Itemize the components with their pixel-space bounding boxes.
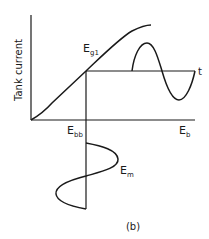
curve-label-eg1: Eg1 — [83, 42, 99, 57]
bias-label-ebb: Ebb — [67, 124, 83, 139]
y-axis-label: Tank current — [13, 39, 24, 102]
x-axis-label-eb: Eb — [179, 124, 191, 139]
time-label: t — [198, 66, 202, 77]
tank-current-diagram: Tank current Eg1 t Ebb Eb Em (b) — [0, 0, 209, 239]
input-label-em: Em — [120, 164, 134, 179]
figure-caption: (b) — [126, 221, 140, 232]
input-sine-wave — [56, 143, 118, 209]
eg1-curve — [31, 25, 151, 120]
